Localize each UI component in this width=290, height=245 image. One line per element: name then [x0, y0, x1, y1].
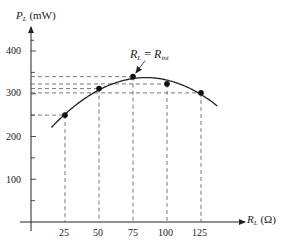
y-tick-label: 300 — [6, 88, 21, 98]
data-point — [62, 112, 68, 118]
data-point — [164, 81, 170, 87]
y-tick-label: 400 — [6, 46, 21, 56]
x-tick-label: 75 — [128, 228, 138, 238]
data-point — [96, 86, 102, 92]
x-axis-unit: (Ω) — [258, 213, 276, 225]
annotation-arrow — [136, 61, 145, 73]
y-tick-label: 200 — [6, 132, 21, 142]
max-power-annotation: RL = Rint — [130, 48, 169, 62]
annotation-rhs-sub: int — [161, 54, 168, 62]
y-axis-symbol: P — [16, 9, 23, 21]
annotation-equals: = — [141, 47, 154, 61]
y-axis-unit: (mW) — [27, 9, 56, 21]
data-point — [130, 74, 136, 80]
y-axis-title: PL (mW) — [16, 10, 56, 23]
curve-line — [51, 78, 217, 128]
power-curve — [51, 78, 217, 128]
x-tick-label: 25 — [59, 228, 69, 238]
y-tick-label: 100 — [6, 175, 21, 185]
x-tick-label: 50 — [93, 228, 103, 238]
power-vs-load-chart — [0, 0, 290, 245]
x-tick-label: 100 — [158, 228, 173, 238]
data-point — [198, 90, 204, 96]
x-axis-title: RL (Ω) — [247, 214, 276, 227]
x-axis-symbol: R — [247, 213, 254, 225]
dashed-guides — [31, 77, 201, 222]
annotation-pointer — [136, 61, 145, 73]
x-tick-label: 125 — [192, 228, 207, 238]
